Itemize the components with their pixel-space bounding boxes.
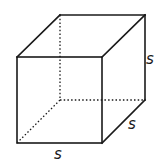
top-right-edge xyxy=(102,15,145,57)
top-left-edge xyxy=(17,15,60,57)
hidden-bottom-left-depth-edge xyxy=(17,100,60,143)
width-label: s xyxy=(54,147,62,162)
height-label: s xyxy=(146,52,154,67)
bottom-right-depth-edge xyxy=(102,100,145,143)
depth-label: s xyxy=(128,117,136,132)
cube-diagram: s s s xyxy=(0,0,167,166)
cube-drawing xyxy=(0,0,167,166)
